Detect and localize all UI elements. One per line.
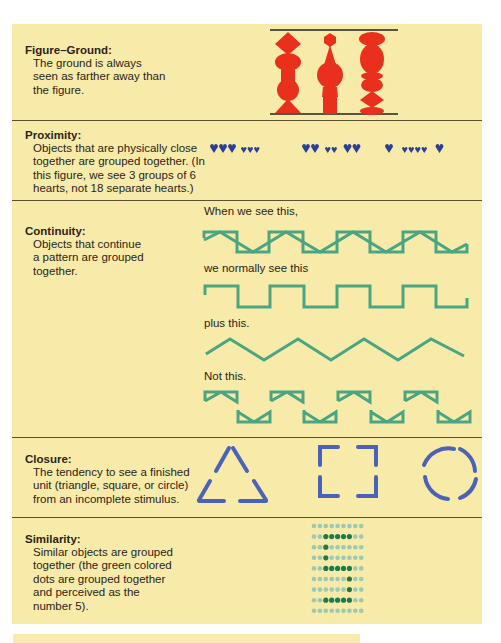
- figure-ground-title: Figure–Ground:: [25, 43, 200, 57]
- heart-icon: [353, 144, 361, 153]
- proximity-line: together are grouped together. (In: [25, 155, 225, 168]
- dot-icon: [335, 556, 340, 561]
- dot-icon: [329, 598, 334, 603]
- heart-icon: [210, 144, 218, 153]
- dot-icon: [353, 587, 358, 592]
- continuity-caption-when: When we see this,: [204, 205, 298, 218]
- dot-icon: [347, 576, 352, 581]
- dot-icon: [341, 609, 346, 614]
- dot-icon: [318, 545, 323, 550]
- continuity-line: Objects that continue: [25, 238, 200, 251]
- dot-icon: [347, 545, 352, 550]
- figure-ground-line: The ground is always: [25, 57, 200, 70]
- similarity-line: Similar objects are grouped: [25, 546, 200, 559]
- heart-icon: [402, 147, 408, 153]
- heart-icon: [344, 144, 352, 153]
- dot-icon: [341, 587, 346, 592]
- dot-icon: [324, 587, 329, 592]
- dot-icon: [347, 566, 352, 571]
- dot-icon: [353, 556, 358, 561]
- proximity-text: Proximity: Objects that are physically c…: [25, 128, 225, 196]
- dot-icon: [318, 566, 323, 571]
- dot-icon: [318, 598, 323, 603]
- dot-icon: [318, 609, 323, 614]
- figure-ground-illustration: [270, 27, 410, 117]
- similarity-line: and perceived as the: [25, 586, 200, 599]
- dot-icon: [335, 598, 340, 603]
- heart-icon: [302, 144, 310, 153]
- dot-icon: [318, 534, 323, 539]
- heart-icon: [385, 144, 393, 153]
- heart-icon: [409, 147, 415, 153]
- dot-icon: [359, 609, 364, 614]
- figure-ground-line: seen as farther away than: [25, 70, 200, 83]
- dot-icon: [329, 556, 334, 561]
- dot-icon: [312, 598, 317, 603]
- dot-icon: [353, 609, 358, 614]
- dot-icon: [359, 587, 364, 592]
- proximity-line: this figure, we see 3 groups of 6: [25, 169, 225, 182]
- dot-icon: [335, 609, 340, 614]
- dot-icon: [312, 587, 317, 592]
- dot-icon: [312, 609, 317, 614]
- continuity-combined-pattern: [202, 228, 472, 258]
- continuity-square-wave: [202, 282, 472, 312]
- proximity-hearts-illustration: [210, 142, 480, 162]
- dot-icon: [324, 577, 329, 582]
- dot-icon: [329, 545, 334, 550]
- dot-icon: [335, 545, 340, 550]
- dot-icon: [353, 577, 358, 582]
- dot-icon: [335, 534, 340, 539]
- dot-icon: [341, 598, 346, 603]
- figure-ground-text: Figure–Ground: The ground is always seen…: [25, 43, 200, 97]
- dot-icon: [347, 556, 352, 561]
- continuity-caption-not: Not this.: [204, 370, 246, 383]
- dot-icon: [341, 524, 346, 529]
- dot-icon: [347, 598, 352, 603]
- dot-icon: [341, 534, 346, 539]
- dot-icon: [329, 587, 334, 592]
- similarity-title: Similarity:: [25, 532, 200, 546]
- heart-icon: [436, 144, 444, 153]
- dot-icon: [353, 545, 358, 550]
- dot-icon: [312, 524, 317, 529]
- continuity-caption-normally: we normally see this: [204, 262, 308, 275]
- heart-icon: [325, 147, 331, 153]
- dot-icon: [312, 566, 317, 571]
- dot-icon: [347, 534, 352, 539]
- similarity-line: together (the green colored: [25, 559, 200, 572]
- dot-icon: [323, 534, 328, 539]
- dot-icon: [329, 609, 334, 614]
- next-panel-edge: [13, 634, 360, 643]
- section-divider: [12, 517, 482, 518]
- continuity-line: together.: [25, 265, 200, 278]
- section-divider: [12, 200, 482, 201]
- closure-shapes: [192, 443, 482, 508]
- similarity-line: number 5).: [25, 600, 200, 613]
- dot-icon: [329, 524, 334, 529]
- dot-icon: [359, 566, 364, 571]
- heart-icon: [219, 144, 227, 153]
- heart-icon: [254, 147, 260, 153]
- dot-icon: [341, 577, 346, 582]
- heart-icon: [248, 147, 254, 153]
- continuity-line: a pattern are grouped: [25, 251, 200, 264]
- dot-icon: [312, 577, 317, 582]
- gestalt-principles-panel: Figure–Ground: The ground is always seen…: [12, 24, 482, 624]
- dot-icon: [335, 577, 340, 582]
- dot-icon: [335, 587, 340, 592]
- dot-icon: [353, 534, 358, 539]
- continuity-text: Continuity: Objects that continue a patt…: [25, 224, 200, 278]
- dot-icon: [335, 566, 340, 571]
- heart-icon: [228, 144, 236, 153]
- section-divider: [12, 437, 482, 438]
- dot-icon: [318, 524, 323, 529]
- dot-icon: [341, 566, 346, 571]
- dot-icon: [329, 577, 334, 582]
- dot-icon: [329, 534, 334, 539]
- dot-icon: [353, 598, 358, 603]
- proximity-line: hearts, not 18 separate hearts.): [25, 182, 225, 195]
- dot-icon: [324, 609, 329, 614]
- similarity-dot-grid: [311, 523, 367, 615]
- dot-icon: [359, 545, 364, 550]
